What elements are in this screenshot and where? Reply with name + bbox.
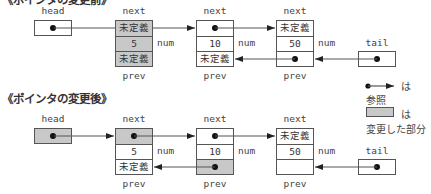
arrow-icon <box>54 28 394 167</box>
pointer-arrows <box>0 0 431 194</box>
